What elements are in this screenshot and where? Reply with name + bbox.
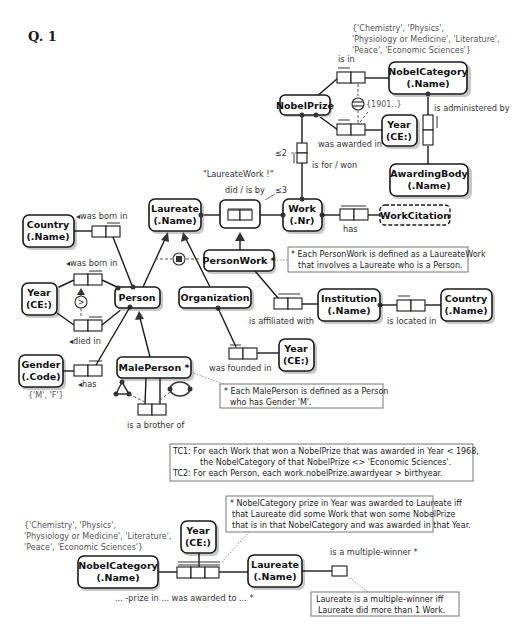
entity-label: (.Name)	[328, 305, 371, 316]
entity-label: MalePerson *	[119, 362, 190, 373]
fact-label-is-administered-by: is administered by	[434, 103, 510, 113]
note-text: who has Gender 'M'.	[230, 398, 312, 407]
entity-label: (CE:)	[26, 299, 52, 310]
entity-label: Year	[185, 525, 210, 536]
entity-label: WorkCitation	[380, 210, 450, 221]
role-box[interactable]	[205, 567, 219, 578]
entity-label: (.Name)	[407, 78, 450, 89]
fact-label-was-awarded-in: was awarded in	[318, 139, 382, 149]
entity-label: (.Name)	[97, 572, 140, 583]
fact-label-multiple-winner: is a multiple-winner *	[330, 547, 418, 557]
fact-label-born-country: ◂was born in	[76, 211, 127, 221]
external-uniqueness-icon	[352, 98, 364, 110]
role-box[interactable]	[177, 567, 191, 578]
note-text: TC2: For each Person, each work.nobelPri…	[172, 469, 443, 478]
frequency-le2: ≤2	[275, 148, 287, 158]
role-box[interactable]	[88, 365, 102, 376]
role-box[interactable]	[74, 320, 88, 331]
note-text: Laureate did more than 1 Work.	[318, 606, 445, 615]
note-text: that Laureate did some Work that won som…	[232, 510, 455, 519]
gender-value-constraint: {'M', 'F'}	[28, 391, 64, 400]
entity-label: Country	[445, 293, 488, 304]
frequency-le3: ≤3	[275, 185, 287, 195]
role-box[interactable]	[288, 298, 302, 309]
role-box[interactable]	[332, 566, 347, 576]
role-box[interactable]	[411, 300, 425, 311]
year-value-constraint: {1901..}	[366, 100, 402, 109]
entity-label: Institution	[321, 293, 377, 304]
role-box[interactable]	[397, 300, 411, 311]
entity-label: NobelCategory	[78, 560, 158, 571]
role-box[interactable]	[229, 348, 243, 359]
entity-label: Person	[118, 292, 155, 303]
role-box[interactable]	[297, 153, 307, 163]
entity-label: (CE:)	[283, 355, 309, 366]
role-box[interactable]	[92, 226, 106, 237]
role-box[interactable]	[138, 404, 152, 415]
note-text: that is in that NobelCategory and was aw…	[232, 521, 471, 530]
role-box[interactable]	[354, 209, 368, 220]
fact-label-founded-in: was founded in	[209, 363, 271, 373]
note-text: * Each PersonWork is defined as a Laurea…	[291, 250, 486, 259]
svg-text:>: >	[78, 298, 85, 307]
role-box[interactable]	[340, 209, 354, 220]
role-box[interactable]	[88, 274, 102, 285]
entity-label: (.Name)	[445, 305, 488, 316]
role-box[interactable]	[228, 210, 240, 220]
entity-label: (.Name)	[254, 571, 297, 582]
note-text: that involves a Laureate who is a Person…	[298, 261, 463, 270]
role-box[interactable]	[88, 320, 102, 331]
entity-label: (.Code)	[21, 371, 60, 382]
objectified-fact-name: "LaureateWork !"	[203, 169, 273, 179]
note-text: Laureate is a multiple-winner iff	[316, 595, 444, 604]
role-box[interactable]	[74, 274, 88, 285]
entity-label: Year	[386, 119, 411, 130]
role-box[interactable]	[74, 365, 88, 376]
category-value-constraint-line2: 'Physiology or Medicine', 'Literature',	[352, 35, 499, 44]
note-text: * NobelCategory prize in Year was awarde…	[230, 499, 462, 508]
fact-label-located-in: is located in	[387, 316, 436, 326]
role-box[interactable]	[337, 72, 351, 83]
fact-label-brother-of: is a brother of	[127, 420, 186, 430]
question-title: Q. 1	[28, 29, 57, 44]
fact-label-is-for-won: is for / won	[312, 160, 357, 170]
entity-label: (.Name)	[408, 180, 451, 191]
role-box[interactable]	[240, 210, 252, 220]
category-value-constraint-line3: 'Peace', 'Economic Sciences'}	[352, 46, 471, 55]
entity-label: AwardingBody	[390, 168, 468, 179]
entity-label: Gender	[22, 359, 61, 370]
ring-symmetric-icon	[170, 382, 190, 396]
fact-label-prize-awarded: ... -prize in ... was awarded to ... *	[115, 593, 254, 603]
entity-label: PersonWork *	[203, 255, 276, 266]
category-value-constraint-bottom-line2: 'Physiology or Medicine', 'Literature',	[24, 532, 171, 541]
role-box[interactable]	[423, 115, 433, 130]
fact-label-died-in: ◂died in	[69, 336, 101, 346]
role-box[interactable]	[243, 348, 257, 359]
role-box[interactable]	[191, 567, 205, 578]
entity-label: NobelPrize	[276, 100, 334, 111]
entity-label: Work	[288, 203, 316, 214]
category-value-constraint-bottom-line3: 'Peace', 'Economic Sciences'}	[24, 543, 143, 552]
entity-label: (CE:)	[185, 537, 211, 548]
entity-label: (CE:)	[386, 131, 412, 142]
entity-label: Laureate	[251, 559, 299, 570]
entity-label: Laureate	[151, 203, 199, 214]
fact-label-born-year: ◂was born in	[66, 258, 117, 268]
entity-label: NobelCategory	[388, 66, 468, 77]
note-text: TC1: For each Work that won a NobelPrize…	[172, 447, 479, 456]
entity-label: Year	[26, 287, 51, 298]
entity-label: Year	[283, 343, 308, 354]
role-box[interactable]	[274, 298, 288, 309]
role-box[interactable]	[351, 72, 365, 83]
role-box[interactable]	[337, 124, 351, 135]
note-text: the NobelCategory of that NobelPrize <> …	[200, 458, 451, 467]
category-value-constraint-line1: {'Chemistry', 'Physics',	[352, 24, 444, 33]
role-box[interactable]	[423, 130, 433, 145]
role-box[interactable]	[152, 404, 166, 415]
orm-diagram: Q. 1 {'Chemistry', 'Physics', 'Physiolog…	[0, 0, 524, 630]
entity-label: Country	[27, 219, 70, 230]
role-box[interactable]	[106, 226, 120, 237]
role-box[interactable]	[351, 124, 365, 135]
fact-label-did-is-by: did / is by	[225, 185, 265, 195]
role-box[interactable]	[297, 143, 307, 153]
